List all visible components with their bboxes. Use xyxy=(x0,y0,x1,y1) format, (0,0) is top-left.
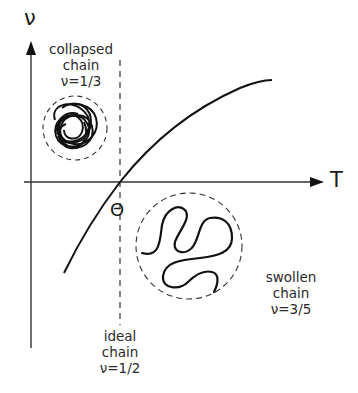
ideal-chain-label: ideal chain ν=1/2 xyxy=(90,328,150,376)
nu-vs-T-curve xyxy=(64,80,272,273)
collapsed-chain-icon xyxy=(54,104,97,148)
swollen-label-line1: swollen xyxy=(251,269,331,285)
y-axis-label: ν xyxy=(24,6,36,30)
diagram-canvas: ν T Θ collapsed chain ν=1/3 ideal chain … xyxy=(0,0,358,393)
swollen-chain-icon xyxy=(142,207,232,292)
x-axis-label: T xyxy=(330,168,343,192)
collapsed-label-line3: ν=1/3 xyxy=(36,73,126,89)
swollen-chain-boundary xyxy=(136,193,242,299)
collapsed-chain-label: collapsed chain ν=1/3 xyxy=(36,41,126,89)
ideal-label-line1: ideal xyxy=(90,328,150,344)
theta-label: Θ xyxy=(110,199,124,220)
swollen-chain-label: swollen chain ν=3/5 xyxy=(251,269,331,317)
swollen-label-line2: chain xyxy=(251,285,331,301)
ideal-label-line2: chain xyxy=(90,344,150,360)
swollen-label-line3: ν=3/5 xyxy=(251,301,331,317)
collapsed-label-line2: chain xyxy=(36,57,126,73)
collapsed-label-line1: collapsed xyxy=(36,41,126,57)
ideal-label-line3: ν=1/2 xyxy=(90,360,150,376)
